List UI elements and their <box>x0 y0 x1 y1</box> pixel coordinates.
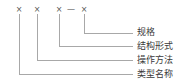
leader-label-type-name: 类型名称 <box>137 70 173 79</box>
leader-path-4 <box>20 14 134 75</box>
code-mark-1: × <box>16 6 23 14</box>
leader-path-3 <box>38 14 134 61</box>
code-mark-4: × <box>81 6 88 14</box>
leader-label-structural-form: 结构形式 <box>137 42 173 51</box>
leader-path-2 <box>60 14 134 47</box>
leader-label-specification: 规格 <box>137 28 155 37</box>
leader-path-1 <box>85 14 134 34</box>
code-mark-2: × <box>34 6 41 14</box>
code-mark-3: × <box>56 6 63 14</box>
code-separator-dash: — <box>67 6 75 14</box>
product-code-diagram: × × × — × 规格 结构形式 操作方法 类型名称 <box>0 0 184 84</box>
leader-label-operating-method: 操作方法 <box>137 56 173 65</box>
